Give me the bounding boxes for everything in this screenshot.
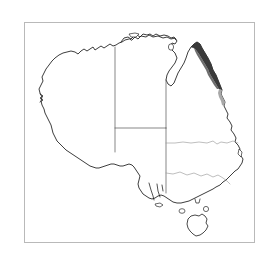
island-tasmania — [187, 214, 208, 236]
map-frame — [24, 22, 255, 243]
port-phillip-detail — [195, 199, 200, 203]
island-melville — [129, 33, 139, 37]
island-kangaroo — [155, 203, 163, 207]
island-flinders — [203, 206, 208, 211]
island-king — [179, 209, 185, 214]
island-groote-eylandt — [168, 44, 173, 50]
figure-root — [0, 0, 272, 263]
australia-map — [25, 23, 256, 244]
mainland-coastline — [39, 35, 243, 203]
